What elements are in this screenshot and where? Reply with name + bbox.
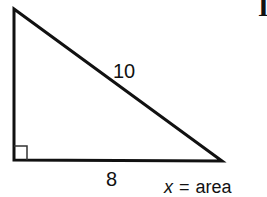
corner-roman-numeral: I xyxy=(258,0,267,21)
triangle-drawing xyxy=(0,0,267,197)
base-label: 8 xyxy=(106,169,117,189)
area-definition: x=area xyxy=(164,178,232,196)
triangle-outline xyxy=(14,9,222,161)
right-angle-marker xyxy=(14,146,27,160)
variable-x: x xyxy=(164,177,173,197)
hypotenuse-label: 10 xyxy=(113,61,135,81)
area-word: area xyxy=(196,177,232,197)
equals-sign: = xyxy=(179,177,190,197)
right-triangle-figure: 10 8 x=area I xyxy=(0,0,267,197)
